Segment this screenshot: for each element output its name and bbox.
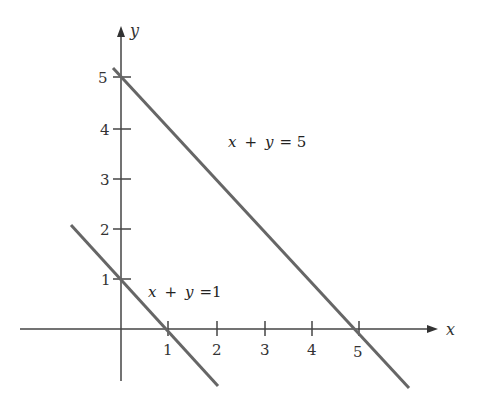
y-tick-label: 1: [101, 271, 111, 289]
y-tick-label: 3: [100, 171, 110, 189]
x-tick-label: 1: [163, 341, 173, 359]
y-tick-label: 2: [100, 221, 110, 239]
x-tick-label: 3: [260, 341, 270, 359]
graph: 1 2 3 4 5 5 4 3 2 1 x y x+y= 5 x+y=1: [0, 0, 477, 407]
x-tick-label: 2: [212, 341, 222, 359]
x-tick-label: 4: [307, 341, 317, 359]
line-x-plus-y-5: [113, 68, 409, 388]
equation-label-5: x+y= 5: [228, 133, 306, 151]
y-tick-label: 4: [100, 121, 110, 139]
equation-label-1: x+y=1: [148, 283, 222, 301]
line-x-plus-y-1: [71, 225, 218, 386]
x-axis-label: x: [446, 320, 455, 339]
y-axis-label: y: [129, 21, 140, 40]
x-tick-label: 5: [353, 343, 363, 361]
y-ticks: [113, 77, 131, 279]
x-axis-arrow-icon: [427, 325, 438, 333]
svg-text:x+y= 5: x+y= 5: [228, 133, 306, 151]
y-axis-arrow-icon: [117, 26, 125, 37]
y-tick-label: 5: [98, 69, 108, 87]
svg-text:x+y=1: x+y=1: [148, 283, 222, 301]
